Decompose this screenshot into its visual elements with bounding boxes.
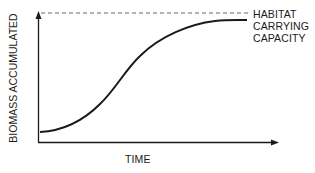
annotation-line-3: CAPACITY: [253, 32, 309, 44]
annotation-line-2: CARRYING: [253, 20, 309, 32]
x-axis-label: TIME: [125, 153, 150, 165]
y-axis-label: BIOMASS ACCUMULATED: [7, 13, 19, 142]
y-axis-arrow-icon: [36, 11, 42, 19]
carrying-capacity-annotation: HABITAT CARRYING CAPACITY: [253, 8, 309, 44]
x-axis-arrow-icon: [271, 140, 279, 146]
biomass-curve: [40, 20, 247, 132]
annotation-line-1: HABITAT: [253, 8, 309, 20]
